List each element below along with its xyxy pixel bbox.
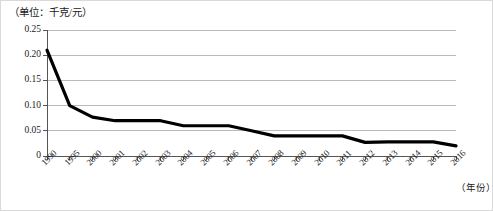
y-axis-tick-label: 0.25 — [24, 25, 41, 35]
data-series-line — [47, 30, 456, 156]
y-axis-tick-label: 0.20 — [24, 50, 41, 60]
y-axis-tick-label: 0.15 — [24, 75, 41, 85]
chart-figure: （单位：千克/元） 00.050.100.150.200.25 19901995… — [0, 0, 493, 211]
y-axis-tick-label: 0.05 — [24, 126, 41, 136]
plot-area — [47, 30, 456, 156]
y-axis-tick-label: 0.10 — [24, 101, 41, 111]
x-axis-title: （年份） — [456, 183, 493, 193]
unit-label: （单位：千克/元） — [9, 6, 92, 19]
x-axis-tick-label: 1990 — [40, 149, 59, 168]
